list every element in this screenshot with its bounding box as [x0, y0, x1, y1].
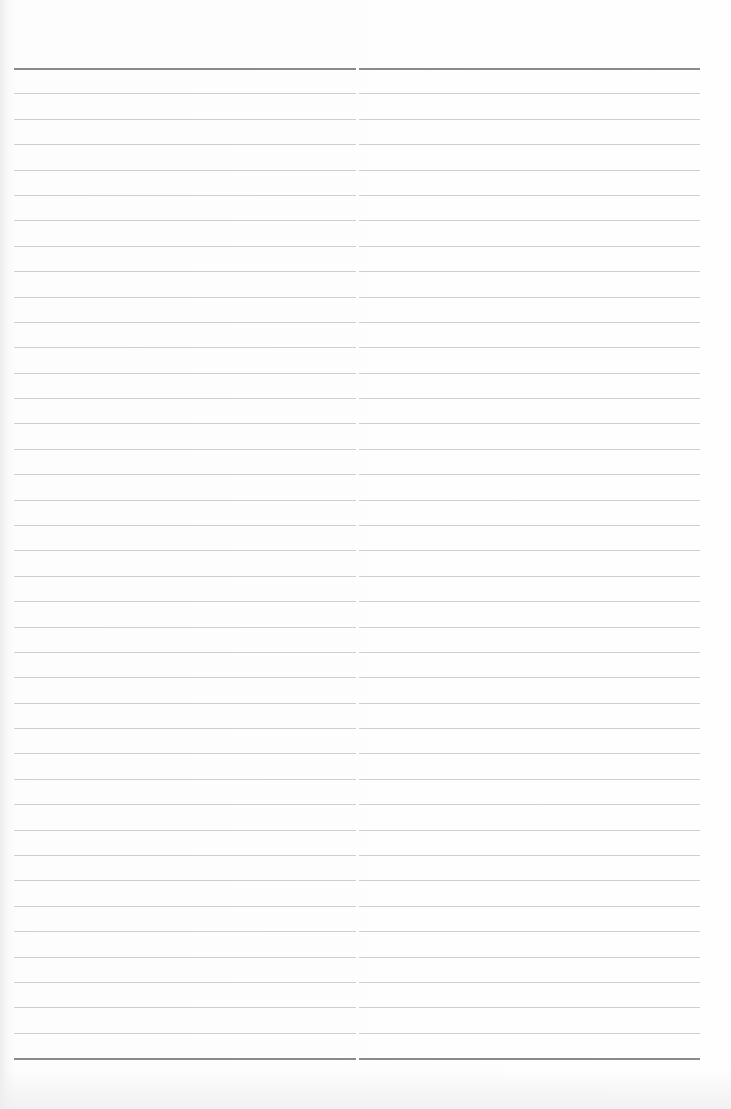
rule-line [14, 195, 356, 196]
heavy-rule-line [14, 1058, 356, 1060]
rule-line [359, 246, 700, 247]
rule-line [359, 93, 700, 94]
heavy-rule-line [359, 68, 700, 70]
rule-line [359, 195, 700, 196]
rule-line [359, 144, 700, 145]
rule-line [359, 830, 700, 831]
rule-line [359, 1007, 700, 1008]
rule-line [14, 931, 356, 932]
rule-line [14, 170, 356, 171]
rule-line [14, 677, 356, 678]
rule-line [359, 1033, 700, 1034]
rule-line [14, 119, 356, 120]
rule-line [359, 500, 700, 501]
rule-line [14, 550, 356, 551]
rule-line [359, 373, 700, 374]
rule-line [359, 347, 700, 348]
rule-line [359, 627, 700, 628]
rule-line [359, 779, 700, 780]
rule-line [359, 906, 700, 907]
rule-line [14, 957, 356, 958]
rule-line [14, 880, 356, 881]
rule-line [14, 576, 356, 577]
rule-line [14, 728, 356, 729]
rule-line [359, 170, 700, 171]
rule-line [14, 1033, 356, 1034]
rule-line [359, 322, 700, 323]
rule-line [359, 297, 700, 298]
page-bottom-shadow [0, 1069, 731, 1109]
rule-line [14, 93, 356, 94]
left-column [14, 0, 356, 1109]
rule-line [14, 246, 356, 247]
rule-line [14, 703, 356, 704]
rule-line [14, 753, 356, 754]
rule-line [359, 652, 700, 653]
rule-line [14, 652, 356, 653]
rule-line [14, 855, 356, 856]
rule-line [14, 423, 356, 424]
rule-line [359, 271, 700, 272]
rule-line [14, 1007, 356, 1008]
rule-line [14, 906, 356, 907]
rule-line [359, 220, 700, 221]
rule-line [14, 297, 356, 298]
rule-line [14, 144, 356, 145]
rule-line [14, 804, 356, 805]
rule-line [359, 119, 700, 120]
rule-line [14, 347, 356, 348]
rule-line [359, 880, 700, 881]
rule-line [14, 830, 356, 831]
heavy-rule-line [359, 1058, 700, 1060]
rule-line [359, 957, 700, 958]
rule-line [14, 449, 356, 450]
rule-line [14, 474, 356, 475]
rule-line [359, 474, 700, 475]
rule-line [359, 931, 700, 932]
rule-line [359, 601, 700, 602]
rule-line [14, 271, 356, 272]
right-column [359, 0, 700, 1109]
rule-line [359, 804, 700, 805]
rule-line [359, 677, 700, 678]
rule-line [14, 627, 356, 628]
rule-line [359, 728, 700, 729]
rule-line [14, 601, 356, 602]
rule-line [359, 423, 700, 424]
rule-line [14, 373, 356, 374]
rule-line [359, 855, 700, 856]
heavy-rule-line [14, 68, 356, 70]
rule-line [14, 322, 356, 323]
rule-line [359, 703, 700, 704]
rule-line [359, 449, 700, 450]
rule-line [14, 525, 356, 526]
rule-line [359, 982, 700, 983]
rule-line [359, 525, 700, 526]
lined-paper-page [0, 0, 731, 1109]
rule-line [359, 753, 700, 754]
rule-line [14, 779, 356, 780]
rule-line [14, 398, 356, 399]
rule-line [14, 220, 356, 221]
rule-line [359, 576, 700, 577]
rule-line [14, 982, 356, 983]
rule-line [359, 550, 700, 551]
rule-line [14, 500, 356, 501]
rule-line [359, 398, 700, 399]
